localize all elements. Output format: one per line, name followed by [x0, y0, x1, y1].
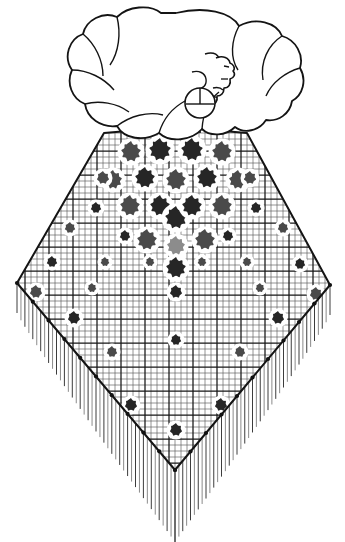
edge-bead [157, 449, 161, 453]
head-profile [68, 7, 304, 139]
edge-bead [328, 283, 332, 287]
edge-bead [250, 375, 254, 379]
edge-bead [266, 357, 270, 361]
edge-bead [281, 338, 285, 342]
edge-bead [141, 431, 145, 435]
shawl-illustration [0, 0, 345, 542]
edge-bead [173, 468, 177, 472]
illustration-canvas [0, 0, 345, 542]
edge-bead [204, 431, 208, 435]
edge-bead [219, 412, 223, 416]
edge-bead [62, 337, 66, 341]
edge-bead [15, 281, 19, 285]
edge-bead [188, 449, 192, 453]
edge-bead [126, 412, 130, 416]
edge-bead [312, 301, 316, 305]
edge-bead [31, 300, 35, 304]
edge-bead [110, 393, 114, 397]
edge-bead [297, 320, 301, 324]
edge-bead [94, 374, 98, 378]
edge-bead [235, 394, 239, 398]
edge-bead [78, 356, 82, 360]
edge-bead [47, 318, 51, 322]
